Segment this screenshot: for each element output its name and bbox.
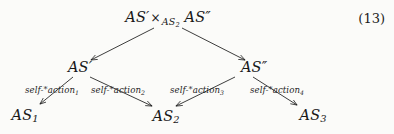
edge-label-1-prefix: self-: [25, 85, 44, 95]
node-as-1-label: AS: [11, 107, 32, 123]
edge-label-self-action-1: self-*action1: [25, 84, 79, 96]
fiber-right-factor: AS: [184, 9, 205, 25]
node-as-double-prime-mark: ″: [262, 59, 267, 75]
node-as-2-subscript: 2: [173, 114, 179, 125]
edge-label-4-prefix: self-: [250, 85, 269, 95]
arrow-root-to-mid-left: [91, 28, 154, 60]
fiber-left-factor: AS: [125, 9, 146, 25]
edge-label-3-prefix: self-: [170, 85, 189, 95]
node-as-3-label: AS: [299, 107, 320, 123]
edge-label-4-word: action: [273, 85, 300, 95]
node-as-2: AS2: [152, 109, 179, 126]
commutative-diagram: AS′×AS2 AS″ AS′ AS″ AS1 AS2 AS3 self-*ac…: [0, 0, 394, 134]
edge-label-2-word: action: [114, 85, 141, 95]
node-as-double-prime-label: AS: [241, 59, 262, 75]
fiber-base-object: AS2: [162, 16, 180, 27]
arrow-root-to-mid-right: [182, 28, 245, 60]
equation-number: (13): [358, 11, 385, 26]
node-as-3-subscript: 3: [320, 113, 326, 124]
edge-label-2-prefix: self-: [91, 85, 110, 95]
fiber-base-label: AS: [162, 16, 176, 27]
edge-label-1-subscript: 1: [75, 89, 79, 96]
node-as-3: AS3: [299, 108, 326, 125]
fiber-right-prime: ″: [205, 9, 210, 25]
edge-label-2-subscript: 2: [141, 89, 145, 96]
node-as-1: AS1: [11, 108, 38, 125]
node-as-prime-label: AS: [68, 59, 89, 75]
node-as-double-prime: AS″: [241, 60, 267, 75]
edge-label-self-action-3: self-*action3: [170, 84, 224, 96]
fiber-times-symbol: ×: [149, 11, 161, 25]
fiber-base-subscript: 2: [175, 21, 179, 29]
edge-label-3-word: action: [193, 85, 220, 95]
node-as-1-subscript: 1: [32, 113, 38, 124]
edge-label-1-word: action: [48, 85, 75, 95]
edge-label-3-subscript: 3: [220, 89, 224, 96]
node-fiber-product: AS′×AS2 AS″: [125, 10, 210, 28]
node-as-2-label: AS: [152, 108, 173, 124]
node-as-prime: AS′: [68, 60, 92, 75]
edge-label-self-action-4: self-*action4: [250, 84, 304, 96]
edge-label-4-subscript: 4: [300, 89, 304, 96]
edge-label-self-action-2: self-*action2: [91, 84, 145, 96]
node-as-prime-mark: ′: [89, 59, 92, 75]
